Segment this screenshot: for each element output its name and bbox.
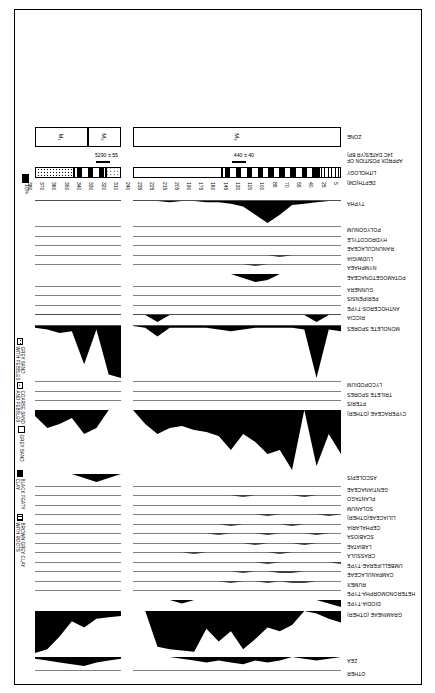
taxon-curve-core-a bbox=[133, 505, 341, 511]
taxon-curve-core-a bbox=[133, 200, 341, 223]
taxon-curve-core-b bbox=[35, 381, 121, 387]
lithology-row-header: LITHOLOGY bbox=[347, 170, 417, 176]
taxon-label: POLYGONUM bbox=[347, 227, 417, 233]
taxon-label: CAMPANULACEAE bbox=[347, 572, 417, 578]
depth-tick-label: 160 bbox=[210, 182, 216, 190]
legend-swatch bbox=[17, 470, 24, 477]
taxon-curve-core-a bbox=[133, 524, 341, 530]
taxon-curve-core-a bbox=[133, 495, 341, 501]
taxon-curve-core-a bbox=[133, 245, 341, 251]
depth-tick-label: 5 bbox=[333, 182, 339, 185]
lithology-legend-item: BLACK PEATY CLAY bbox=[15, 470, 25, 510]
lithology-legend-item: BROWN GREY CLAY WITH ROOTS bbox=[15, 514, 25, 567]
lithology-legend-item: COARSE SAND AND PEBBLES bbox=[15, 382, 25, 424]
legend-label: GREY SAND bbox=[19, 435, 24, 462]
taxon-curve-core-b bbox=[35, 264, 121, 270]
taxon-label: LILIACEAE(OTHER) bbox=[347, 515, 417, 521]
radiocarbon-date-label: 5290 ± 55 bbox=[95, 153, 118, 159]
taxon-label: HYDROCOTYLE bbox=[347, 236, 417, 242]
taxon-curve-core-b bbox=[35, 325, 121, 378]
lithology-segment bbox=[133, 167, 222, 178]
zone-label: M₃ bbox=[234, 133, 240, 140]
taxon-curve-core-a bbox=[133, 381, 341, 387]
taxon-label: PERIPENSIS bbox=[347, 296, 417, 302]
taxon-curve-core-b bbox=[35, 255, 121, 261]
dates-row-header: APPROX POSITION OF 14C DATES(YR BP) bbox=[347, 152, 417, 164]
depth-tick-label: 235 bbox=[137, 182, 143, 190]
taxon-label: GUNNERA bbox=[347, 286, 417, 292]
taxon-label: HETERONOMORPHA-TYPE bbox=[347, 591, 417, 597]
taxon-curve-core-b bbox=[35, 552, 121, 558]
taxon-label: POTAMOGETONACEAE bbox=[347, 274, 417, 280]
depth-tick-label: 70 bbox=[284, 182, 290, 188]
taxon-curve-core-b bbox=[35, 236, 121, 242]
zone-label: M₁ bbox=[58, 133, 64, 140]
taxon-curve-core-a bbox=[133, 286, 341, 292]
taxon-label: RUMEX bbox=[347, 581, 417, 587]
lithology-segment bbox=[222, 167, 319, 178]
taxon-curve-core-a bbox=[133, 562, 341, 568]
taxon-curve-core-a bbox=[133, 295, 341, 301]
depth-tick-label: 215 bbox=[162, 182, 168, 190]
taxon-curve-core-a bbox=[133, 305, 341, 311]
taxon-label: RICCIA bbox=[347, 315, 417, 321]
depth-tick-label: 100 bbox=[259, 182, 265, 190]
diagram-frame: OTHERZEAGRAMINEAE (OTHER)DIODIA-TYPEHETE… bbox=[14, 9, 422, 685]
scale-bar-label: 10% bbox=[24, 184, 30, 194]
taxon-curve-core-b bbox=[35, 286, 121, 292]
taxon-curve-core-b bbox=[35, 600, 121, 608]
taxon-curve-core-b bbox=[35, 524, 121, 530]
taxon-curve-core-b bbox=[35, 295, 121, 301]
taxon-curve-core-a bbox=[133, 657, 341, 667]
taxon-curve-core-a bbox=[133, 600, 341, 608]
taxon-curve-core-b bbox=[35, 562, 121, 568]
lithology-segment bbox=[74, 167, 106, 178]
taxon-curve-core-a bbox=[133, 226, 341, 232]
taxon-curve-core-a bbox=[133, 400, 341, 406]
radiocarbon-date-marker bbox=[232, 161, 246, 163]
depth-row-header: DEPTH(CM) bbox=[347, 180, 417, 186]
taxon-curve-core-a bbox=[133, 474, 341, 483]
taxon-label: TYPHA bbox=[347, 201, 417, 207]
depth-tick-label: 145 bbox=[223, 182, 229, 190]
taxon-curve-core-b bbox=[35, 391, 121, 397]
taxon-curve-core-b bbox=[35, 514, 121, 520]
taxon-curve-core-b bbox=[35, 571, 121, 577]
taxon-curve-core-b bbox=[35, 305, 121, 311]
taxon-curve-core-a bbox=[133, 611, 341, 654]
depth-tick-label: 320 bbox=[101, 182, 107, 190]
depth-tick-label: 370 bbox=[39, 182, 45, 190]
legend-swatch bbox=[17, 338, 24, 345]
taxon-label: SOLANUM bbox=[347, 505, 417, 511]
taxon-label: MONOLETE SPORES bbox=[347, 326, 417, 332]
taxon-curve-core-b bbox=[35, 245, 121, 251]
taxon-curve-core-b bbox=[35, 226, 121, 232]
taxon-label: PLANTAGO bbox=[347, 496, 417, 502]
taxon-curve-core-a bbox=[133, 264, 341, 270]
depth-tick-label: 175 bbox=[198, 182, 204, 190]
taxon-label: CEPHALARIA bbox=[347, 524, 417, 530]
taxon-curve-core-a bbox=[133, 486, 341, 492]
taxon-curve-core-a bbox=[133, 514, 341, 520]
lithology-segment bbox=[106, 167, 121, 178]
taxon-curve-core-a bbox=[133, 325, 341, 378]
taxon-curve-core-b bbox=[35, 533, 121, 539]
scale-bar-fill bbox=[22, 174, 29, 183]
taxon-label: LABIATAE bbox=[347, 543, 417, 549]
taxon-curve-core-a bbox=[133, 533, 341, 539]
depth-tick-label: 240 bbox=[125, 182, 131, 190]
taxon-label: GENTIANACEAE bbox=[347, 486, 417, 492]
depth-tick-label: 225 bbox=[149, 182, 155, 190]
taxon-curve-core-a bbox=[133, 543, 341, 549]
taxon-curve-core-a bbox=[133, 670, 341, 676]
depth-tick-label: 310 bbox=[113, 182, 119, 190]
legend-swatch bbox=[17, 514, 24, 521]
zone-row-header: ZONE bbox=[347, 134, 417, 140]
taxon-curve-core-b bbox=[35, 581, 121, 587]
taxon-curve-core-a bbox=[133, 571, 341, 577]
depth-tick-label: 205 bbox=[174, 182, 180, 190]
taxon-label: RANUNCULACEAE bbox=[347, 246, 417, 252]
taxon-label: NYMPHAEA bbox=[347, 265, 417, 271]
taxon-curve-core-b bbox=[35, 505, 121, 511]
zone-box: M₃ bbox=[133, 127, 341, 147]
